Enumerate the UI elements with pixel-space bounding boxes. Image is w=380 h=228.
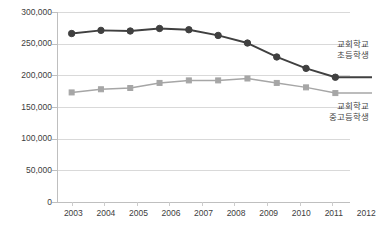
data-point-2004: [98, 87, 103, 92]
data-point-2006: [157, 80, 162, 85]
data-point-2011: [303, 65, 309, 71]
data-point-2005: [128, 86, 133, 91]
legend-secondary-line1: 교회학교: [329, 101, 369, 112]
data-point-2005: [127, 28, 133, 34]
data-point-2008: [216, 78, 221, 83]
legend-label-secondary: 교회학교 중고등학생: [329, 101, 369, 122]
data-point-2012: [332, 74, 338, 80]
data-point-2010: [274, 80, 279, 85]
data-point-2008: [215, 32, 221, 38]
series-line: [72, 28, 336, 77]
data-point-2009: [244, 40, 250, 46]
data-point-2003: [69, 90, 74, 95]
legend-secondary-line2: 중고등학생: [329, 112, 369, 123]
data-point-2004: [98, 27, 104, 33]
series-secondary: [69, 76, 338, 96]
legend-label-primary: 교회학교 초등학생: [337, 39, 369, 60]
data-point-2007: [186, 27, 192, 33]
data-point-2007: [186, 78, 191, 83]
series-primary: [68, 25, 338, 80]
data-point-2011: [304, 85, 309, 90]
data-point-2012: [333, 91, 338, 96]
data-point-2006: [156, 25, 162, 31]
legend-primary-line1: 교회학교: [337, 39, 369, 50]
data-point-2003: [68, 30, 74, 36]
data-point-2010: [274, 54, 280, 60]
series-line: [72, 79, 336, 94]
data-point-2009: [245, 76, 250, 81]
legend-primary-line2: 초등학생: [337, 50, 369, 61]
